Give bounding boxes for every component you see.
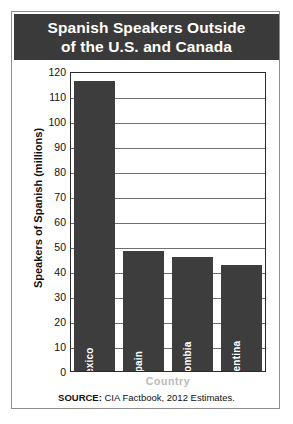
chart-title-line-1: Spanish Speakers Outside bbox=[48, 19, 246, 36]
y-tick-label: 110 bbox=[49, 91, 66, 103]
y-tick-label: 80 bbox=[54, 166, 66, 178]
bar-category-label: Spain bbox=[133, 351, 144, 371]
chart-title-banner: Spanish Speakers Outside of the U.S. and… bbox=[14, 14, 279, 60]
bar-slot: Argentina bbox=[221, 73, 262, 371]
page-title: Spanish Speakers Outside of the U.S. and… bbox=[48, 18, 246, 56]
bar-slot: Colombia bbox=[172, 73, 213, 371]
y-axis-tick-labels: 1201101009080706050403020100 bbox=[40, 72, 66, 372]
bar-slot: Mexico bbox=[74, 73, 115, 371]
bar-category-label: Colombia bbox=[182, 341, 193, 371]
y-tick-label: 50 bbox=[54, 241, 66, 253]
y-tick-label: 60 bbox=[54, 216, 66, 228]
y-tick-label: 90 bbox=[54, 141, 66, 153]
bar-category-label: Mexico bbox=[84, 347, 95, 371]
bar[interactable]: Colombia bbox=[172, 257, 213, 371]
bar-series: MexicoSpainColombiaArgentina bbox=[71, 73, 265, 371]
x-axis-label: Country bbox=[70, 375, 266, 387]
y-tick-label: 40 bbox=[54, 266, 66, 278]
source-text: CIA Factbook, 2012 Estimates. bbox=[102, 392, 235, 403]
bar-category-label: Argentina bbox=[231, 341, 242, 371]
bar[interactable]: Argentina bbox=[221, 265, 262, 371]
y-tick-label: 120 bbox=[48, 66, 66, 78]
source-label: SOURCE: bbox=[58, 392, 102, 403]
bar-slot: Spain bbox=[123, 73, 164, 371]
source-note: SOURCE: CIA Factbook, 2012 Estimates. bbox=[14, 392, 279, 403]
chart-area: Speakers of Spanish (millions) 120110100… bbox=[14, 60, 279, 408]
y-tick-label: 10 bbox=[54, 341, 66, 353]
y-tick-label: 30 bbox=[54, 291, 66, 303]
y-tick-label: 70 bbox=[54, 191, 66, 203]
y-tick-label: 20 bbox=[54, 316, 66, 328]
y-tick-label: 0 bbox=[60, 366, 66, 378]
bar[interactable]: Mexico bbox=[74, 81, 115, 371]
bar[interactable]: Spain bbox=[123, 251, 164, 371]
chart-title-line-2: of the U.S. and Canada bbox=[48, 37, 246, 56]
chart-card: Spanish Speakers Outside of the U.S. and… bbox=[11, 11, 280, 409]
y-tick-label: 100 bbox=[48, 116, 66, 128]
plot-frame: MexicoSpainColombiaArgentina bbox=[70, 72, 266, 372]
